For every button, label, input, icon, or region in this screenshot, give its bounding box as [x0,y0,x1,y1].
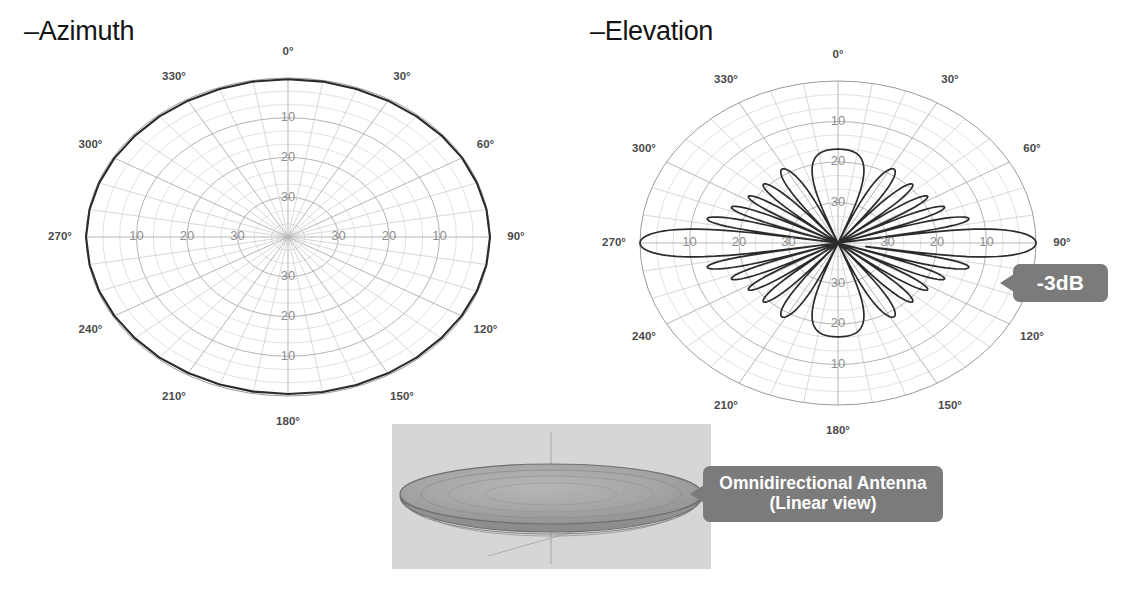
radial-tick-label: 10 [129,228,143,243]
angle-tick-label: 30° [393,70,411,82]
angle-tick-label: 120° [1020,330,1044,342]
angle-tick-label: 120° [474,323,498,335]
angle-tick-label: 240° [632,330,656,342]
radial-tick-label: 10 [432,228,446,243]
angle-tick-label: 270° [602,236,626,248]
radial-tick-label: 10 [281,109,295,124]
radial-tick-label: 30 [781,234,795,249]
angle-tick-label: 300° [79,138,103,150]
callout-tail-icon [1000,274,1014,292]
radial-tick-label: 20 [281,308,295,323]
radial-tick-label: 10 [831,356,845,371]
radial-tick-label: 10 [979,234,993,249]
angle-tick-label: 0° [833,48,844,60]
angle-tick-label: 210° [162,390,186,402]
omni-callout-line2: (Linear view) [719,494,926,514]
radial-tick-label: 20 [281,149,295,164]
angle-tick-label: 300° [632,142,656,154]
angle-tick-label: 180° [826,424,850,436]
angle-tick-label: 240° [79,323,103,335]
angle-tick-label: 90° [1053,236,1071,248]
azimuth-polar-plot: 102030102030102030102030 0°30°60°90°120°… [0,0,568,410]
radial-tick-label: 30 [230,228,244,243]
omnidirectional-antenna-callout: Omnidirectional Antenna (Linear view) [703,466,943,522]
angle-tick-label: 60° [477,138,495,150]
angle-tick-label: 150° [390,390,414,402]
angle-tick-label: 0° [283,45,294,57]
callout-tail-icon [690,485,704,503]
elevation-panel: –Elevation 102030102030102030102030 0°30… [568,0,1137,410]
angle-tick-label: 60° [1023,142,1041,154]
azimuth-panel: –Azimuth 102030102030102030102030 0°30°6… [0,0,568,410]
elevation-polar-plot: 102030102030102030102030 0°30°60°90°120°… [568,0,1137,410]
angle-tick-label: 330° [714,73,738,85]
radial-tick-label: 30 [331,228,345,243]
radial-tick-label: 30 [880,234,894,249]
radial-tick-label: 30 [281,268,295,283]
radial-tick-label: 30 [831,194,845,209]
radial-tick-label: 20 [831,315,845,330]
radial-tick-label: 20 [180,228,194,243]
radial-tick-label: 20 [930,234,944,249]
angle-tick-label: 30° [941,73,959,85]
antenna-3d-view [392,424,711,569]
disc-top-surface [400,464,702,524]
radial-tick-label: 20 [732,234,746,249]
angle-tick-label: 150° [938,399,962,411]
radial-tick-label: 10 [682,234,696,249]
radial-tick-label: 20 [831,153,845,168]
radial-tick-label: 10 [281,348,295,363]
radial-tick-label: 30 [831,275,845,290]
radial-tick-label: 30 [281,189,295,204]
minus-3db-callout-label: -3dB [1037,271,1084,295]
angle-tick-label: 270° [48,230,72,242]
angle-tick-label: 210° [714,399,738,411]
angle-tick-label: 330° [162,70,186,82]
angle-tick-label: 180° [276,415,300,427]
minus-3db-callout: -3dB [1013,264,1108,302]
omni-callout-line1: Omnidirectional Antenna [719,474,926,494]
angle-tick-label: 90° [507,230,525,242]
radial-tick-label: 20 [382,228,396,243]
radial-tick-label: 10 [831,113,845,128]
